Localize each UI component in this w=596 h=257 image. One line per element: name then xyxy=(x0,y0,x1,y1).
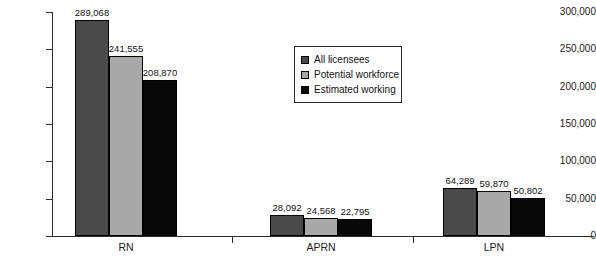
legend-item-estimated-working: Estimated working xyxy=(301,82,395,97)
bar-lpn-potential-workforce xyxy=(477,191,511,236)
y-tick-label-200000: 200,000 xyxy=(552,82,596,92)
x-axis-line xyxy=(52,236,594,237)
legend-item-potential-workforce: Potential workforce xyxy=(301,67,395,82)
chart-legend: All licensees Potential workforce Estima… xyxy=(294,46,402,103)
y-tick-150000 xyxy=(46,124,53,125)
x-group-label-aprn: APRN xyxy=(291,241,351,253)
bar-chart: 300,000 250,000 200,000 150,000 100,000 … xyxy=(0,0,596,257)
bar-value-lpn-estimated-working: 50,802 xyxy=(498,186,558,196)
bar-lpn-all-licensees xyxy=(443,188,477,236)
y-tick-50000 xyxy=(46,199,53,200)
x-group-label-rn: RN xyxy=(96,241,156,253)
y-tick-label-50000: 50,000 xyxy=(552,194,596,204)
y-tick-label-300000: 300,000 xyxy=(552,7,596,17)
x-tick-separator-2 xyxy=(413,237,414,243)
bar-rn-estimated-working xyxy=(143,80,177,236)
bar-rn-potential-workforce xyxy=(109,56,143,236)
bar-value-aprn-estimated-working: 22,795 xyxy=(325,207,385,217)
legend-item-all-licensees: All licensees xyxy=(301,52,395,67)
bar-lpn-estimated-working xyxy=(511,198,545,236)
y-tick-300000 xyxy=(46,12,53,13)
bar-value-rn-all-licensees: 289,068 xyxy=(62,8,122,18)
bar-aprn-all-licensees xyxy=(270,215,304,236)
bar-value-rn-potential-workforce: 241,555 xyxy=(96,44,156,54)
legend-label-estimated-working: Estimated working xyxy=(314,84,396,95)
x-group-label-lpn: LPN xyxy=(464,241,524,253)
y-tick-label-150000: 150,000 xyxy=(552,119,596,129)
y-tick-200000 xyxy=(46,87,53,88)
y-tick-100000 xyxy=(46,161,53,162)
legend-swatch-estimated-working xyxy=(301,86,309,94)
x-tick-separator-1 xyxy=(232,237,233,243)
legend-label-all-licensees: All licensees xyxy=(314,54,370,65)
bar-aprn-potential-workforce xyxy=(304,218,338,236)
bar-value-rn-estimated-working: 208,870 xyxy=(130,68,190,78)
bar-aprn-estimated-working xyxy=(338,219,372,236)
legend-label-potential-workforce: Potential workforce xyxy=(314,69,399,80)
y-tick-label-250000: 250,000 xyxy=(552,44,596,54)
y-tick-250000 xyxy=(46,49,53,50)
legend-swatch-all-licensees xyxy=(301,56,309,64)
y-tick-label-100000: 100,000 xyxy=(552,156,596,166)
legend-swatch-potential-workforce xyxy=(301,71,309,79)
